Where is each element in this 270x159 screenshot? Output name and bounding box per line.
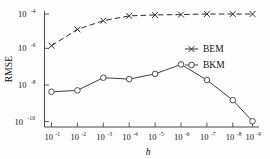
legend-entry-bkm[interactable]: BKM <box>185 60 225 70</box>
x-tick-label-exponent: -6 <box>185 131 190 137</box>
series-bem-line <box>52 14 253 46</box>
x-tick-label: 10 <box>148 132 157 142</box>
data-point-marker <box>126 76 132 82</box>
y-tick-label: 10 <box>18 43 27 53</box>
x-tick-label: 10 <box>96 132 105 142</box>
x-tick-label-exponent: -8 <box>237 131 242 137</box>
rmse-vs-h-log-log-plot: 10 -4 10 -6 10 -8 10 -10 10 -1 10 -2 <box>0 0 270 159</box>
legend-entry-bem[interactable]: BEM <box>185 44 224 54</box>
x-tick-label-exponent: -4 <box>133 131 138 137</box>
data-point-marker <box>204 77 210 83</box>
y-tick-label: 10 <box>15 117 24 127</box>
x-tick-label: 10 <box>45 132 54 142</box>
legend-label-bem: BEM <box>203 44 224 54</box>
chart-figure: 10 -4 10 -6 10 -8 10 -10 10 -1 10 -2 <box>0 0 270 159</box>
data-point-marker <box>178 62 184 68</box>
circle-marker-icon <box>189 62 195 68</box>
x-tick-label-exponent: -7 <box>211 131 216 137</box>
x-tick-label-exponent: -3 <box>107 131 112 137</box>
x-tick-label: 10 <box>200 132 209 142</box>
data-point-marker <box>250 119 256 125</box>
x-tick-label-exponent: -5 <box>159 131 164 137</box>
x-tick-label: 10 <box>70 132 79 142</box>
x-tick-label-exponent: -1 <box>56 131 61 137</box>
series-bkm-markers <box>49 62 256 124</box>
x-axis-ticks <box>52 123 253 128</box>
x-tick-label-exponent: -9 <box>257 131 262 137</box>
x-tick-label-exponent: -2 <box>81 131 86 137</box>
x-axis-tick-labels: 10 -1 10 -2 10 -3 10 -4 10 -5 10 -6 10 -… <box>45 131 262 142</box>
series-bem-markers <box>49 11 256 49</box>
y-tick-label: 10 <box>18 80 27 90</box>
data-point-marker <box>152 71 158 77</box>
data-point-marker <box>101 75 107 81</box>
y-tick-label-exponent: -6 <box>31 42 36 48</box>
series-bkm <box>49 62 256 124</box>
y-tick-label-exponent: -10 <box>28 115 36 121</box>
y-tick-label: 10 <box>18 9 27 19</box>
legend-label-bkm: BKM <box>203 60 225 70</box>
data-point-marker <box>230 97 236 103</box>
x-tick-label: 10 <box>246 132 255 142</box>
x-tick-label: 10 <box>122 132 131 142</box>
data-point-marker <box>49 89 55 95</box>
y-axis-title: RMSE <box>4 56 14 83</box>
x-axis-title: h <box>146 147 151 157</box>
y-tick-label-exponent: -8 <box>31 79 36 85</box>
y-axis-tick-labels: 10 -4 10 -6 10 -8 10 -10 <box>15 8 36 127</box>
data-point-marker <box>75 88 81 94</box>
x-tick-label: 10 <box>174 132 183 142</box>
y-tick-label-exponent: -4 <box>31 8 36 14</box>
series-bem <box>49 11 256 49</box>
x-tick-label: 10 <box>226 132 235 142</box>
chart-legend: BEM BKM <box>185 44 225 70</box>
y-axis-ticks <box>45 14 50 122</box>
